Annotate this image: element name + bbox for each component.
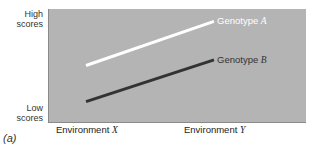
genotype-b-letter: B bbox=[261, 55, 267, 65]
panel-label: (a) bbox=[3, 132, 16, 144]
env-x-word: Environment bbox=[56, 124, 109, 135]
genotype-a-line bbox=[86, 21, 214, 65]
genotype-b-line bbox=[86, 60, 214, 102]
genotype-a-word: Genotype bbox=[217, 15, 258, 26]
genotype-b-label: Genotype B bbox=[217, 54, 267, 65]
genotype-a-letter: A bbox=[261, 16, 267, 26]
x-label-environment-y: Environment Y bbox=[184, 124, 245, 135]
env-y-word: Environment bbox=[184, 124, 237, 135]
genotype-a-label: Genotype A bbox=[217, 15, 267, 26]
lines-svg bbox=[0, 0, 323, 147]
env-y-letter: Y bbox=[240, 125, 245, 135]
env-x-letter: X bbox=[112, 125, 118, 135]
genotype-b-word: Genotype bbox=[217, 54, 258, 65]
x-label-environment-x: Environment X bbox=[56, 124, 118, 135]
